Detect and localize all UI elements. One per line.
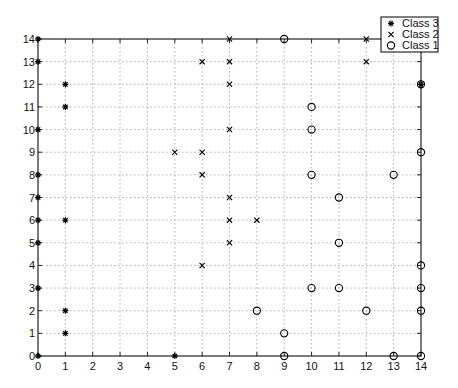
star-marker	[62, 81, 68, 87]
y-tick-label: 7	[29, 192, 35, 204]
x-marker	[200, 150, 205, 155]
star-marker	[62, 330, 68, 336]
x-axis-ticks: 01234567891011121314	[35, 39, 427, 372]
y-tick-label: 5	[29, 237, 35, 249]
y-tick-label: 6	[29, 214, 35, 226]
y-tick-label: 1	[29, 327, 35, 339]
y-tick-label: 9	[29, 146, 35, 158]
y-tick-label: 3	[29, 282, 35, 294]
y-tick-label: 11	[24, 101, 35, 113]
y-tick-label: 10	[23, 124, 35, 136]
star-marker	[62, 308, 68, 314]
x-tick-label: 11	[333, 360, 344, 372]
x-tick-label: 13	[388, 360, 400, 372]
x-tick-label: 14	[415, 360, 427, 372]
star-marker-icon	[388, 21, 394, 27]
x-tick-label: 9	[281, 360, 287, 372]
star-marker	[62, 104, 68, 110]
star-marker	[35, 353, 41, 359]
star-marker	[388, 21, 394, 27]
star-marker	[35, 172, 41, 178]
legend-label: Class 1	[402, 39, 439, 51]
x-tick-label: 0	[35, 360, 41, 372]
y-tick-label: 13	[23, 56, 35, 68]
x-tick-label: 1	[62, 360, 68, 372]
x-tick-label: 8	[254, 360, 260, 372]
star-marker	[35, 240, 41, 246]
x-tick-label: 2	[90, 360, 96, 372]
star-marker	[35, 195, 41, 201]
y-tick-label: 2	[29, 305, 35, 317]
scatter-plot: 01234567891011121314 0123456789101112131…	[0, 0, 458, 388]
y-tick-label: 0	[29, 350, 35, 362]
x-marker	[200, 172, 205, 177]
x-tick-label: 4	[144, 360, 150, 372]
star-marker	[418, 81, 424, 87]
y-tick-label: 4	[29, 259, 35, 271]
y-tick-label: 14	[23, 33, 35, 45]
x-tick-label: 7	[226, 360, 232, 372]
star-marker	[35, 36, 41, 42]
star-marker	[35, 127, 41, 133]
x-marker	[172, 150, 177, 155]
x-tick-label: 10	[305, 360, 317, 372]
star-marker	[35, 59, 41, 65]
y-tick-label: 8	[29, 169, 35, 181]
x-tick-label: 12	[360, 360, 372, 372]
y-tick-label: 12	[23, 78, 35, 90]
star-marker	[35, 217, 41, 223]
star-marker	[35, 285, 41, 291]
legend: Class 3 Class 2 Class 1	[381, 17, 439, 52]
star-marker	[172, 353, 178, 359]
x-tick-label: 3	[117, 360, 123, 372]
star-marker	[62, 217, 68, 223]
x-tick-label: 5	[172, 360, 178, 372]
x-tick-label: 6	[199, 360, 205, 372]
